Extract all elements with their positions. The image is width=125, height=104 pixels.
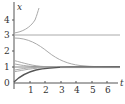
x-axis: 1 2 3 4 5 6 t (14, 78, 124, 95)
curve-from-2.8 (14, 38, 120, 67)
y-tick-3: 3 (4, 30, 10, 40)
x-axis-label: t (120, 78, 124, 88)
x-tick-5: 5 (90, 85, 96, 95)
x-tick-6: 6 (105, 85, 111, 95)
y-tick-0: 0 (4, 78, 10, 88)
x-tick-4: 4 (74, 85, 80, 95)
curves (14, 8, 120, 82)
y-tick-1: 1 (4, 62, 10, 72)
x-tick-1: 1 (28, 85, 34, 95)
solution-curves-chart: 4 3 2 1 0 x 1 2 3 4 5 6 t (0, 0, 125, 104)
x-tick-2: 2 (43, 85, 49, 95)
y-tick-4: 4 (4, 15, 10, 25)
y-axis: 4 3 2 1 0 x (4, 2, 22, 89)
y-axis-label: x (17, 2, 22, 12)
x-tick-3: 3 (59, 85, 65, 95)
y-tick-2: 2 (4, 46, 10, 56)
